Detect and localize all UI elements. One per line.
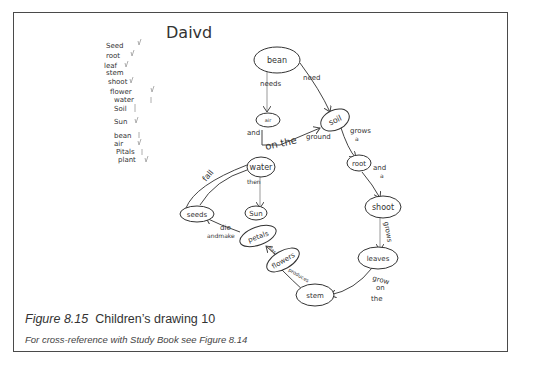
svg-text:on: on [376,284,385,292]
svg-text:Seed: Seed [106,42,124,50]
figure-number: Figure 8.15 [25,312,88,326]
svg-text:stem: stem [306,292,324,300]
svg-text:and: and [247,129,260,137]
svg-text:Sun: Sun [249,210,262,218]
svg-text:on the: on the [264,135,298,152]
svg-text:Pitals: Pitals [116,148,135,156]
svg-text:water: water [114,96,134,104]
svg-text:grows: grows [382,221,394,243]
svg-text:andmake: andmake [207,232,235,239]
svg-text:root: root [352,160,366,168]
svg-text:bean: bean [267,56,287,65]
svg-text:and: and [373,164,386,172]
svg-text:shoot: shoot [108,78,128,86]
figure-title: Children’s drawing 10 [95,312,215,326]
svg-text:flower: flower [110,88,132,96]
svg-text:a: a [380,172,384,179]
svg-text:stem: stem [106,69,124,77]
svg-text:a: a [355,135,359,142]
svg-text:water: water [250,163,274,172]
svg-text:Sun: Sun [114,118,127,126]
svg-text:then: then [247,178,261,185]
figure-caption: Figure 8.15 Children’s drawing 10 [25,312,215,326]
svg-text:grows: grows [350,127,371,135]
svg-text:the: the [371,295,383,303]
svg-text:need: need [303,74,321,82]
svg-text:air: air [265,117,272,123]
author-name: Daivd [166,23,212,42]
svg-text:air: air [114,140,123,148]
svg-text:leaves: leaves [367,255,390,263]
concept-map-drawing: Daivd Seed root leaf stem shoot flower w… [0,0,535,365]
cross-reference-note: For cross-reference with Study Book see … [25,334,247,345]
word-list: Seed root leaf stem shoot flower water S… [104,39,154,164]
svg-text:shoot: shoot [372,203,394,212]
svg-text:ground: ground [306,133,331,141]
svg-text:Soil: Soil [114,105,127,113]
svg-text:bean: bean [114,132,131,140]
svg-text:produces: produces [287,267,311,285]
svg-text:die: die [220,224,231,232]
svg-text:plant: plant [118,156,136,164]
svg-text:root: root [106,52,120,60]
svg-text:needs: needs [260,80,281,88]
link-labels: needs need and on the ground grows a and… [201,74,394,303]
svg-text:seeds: seeds [187,211,208,219]
